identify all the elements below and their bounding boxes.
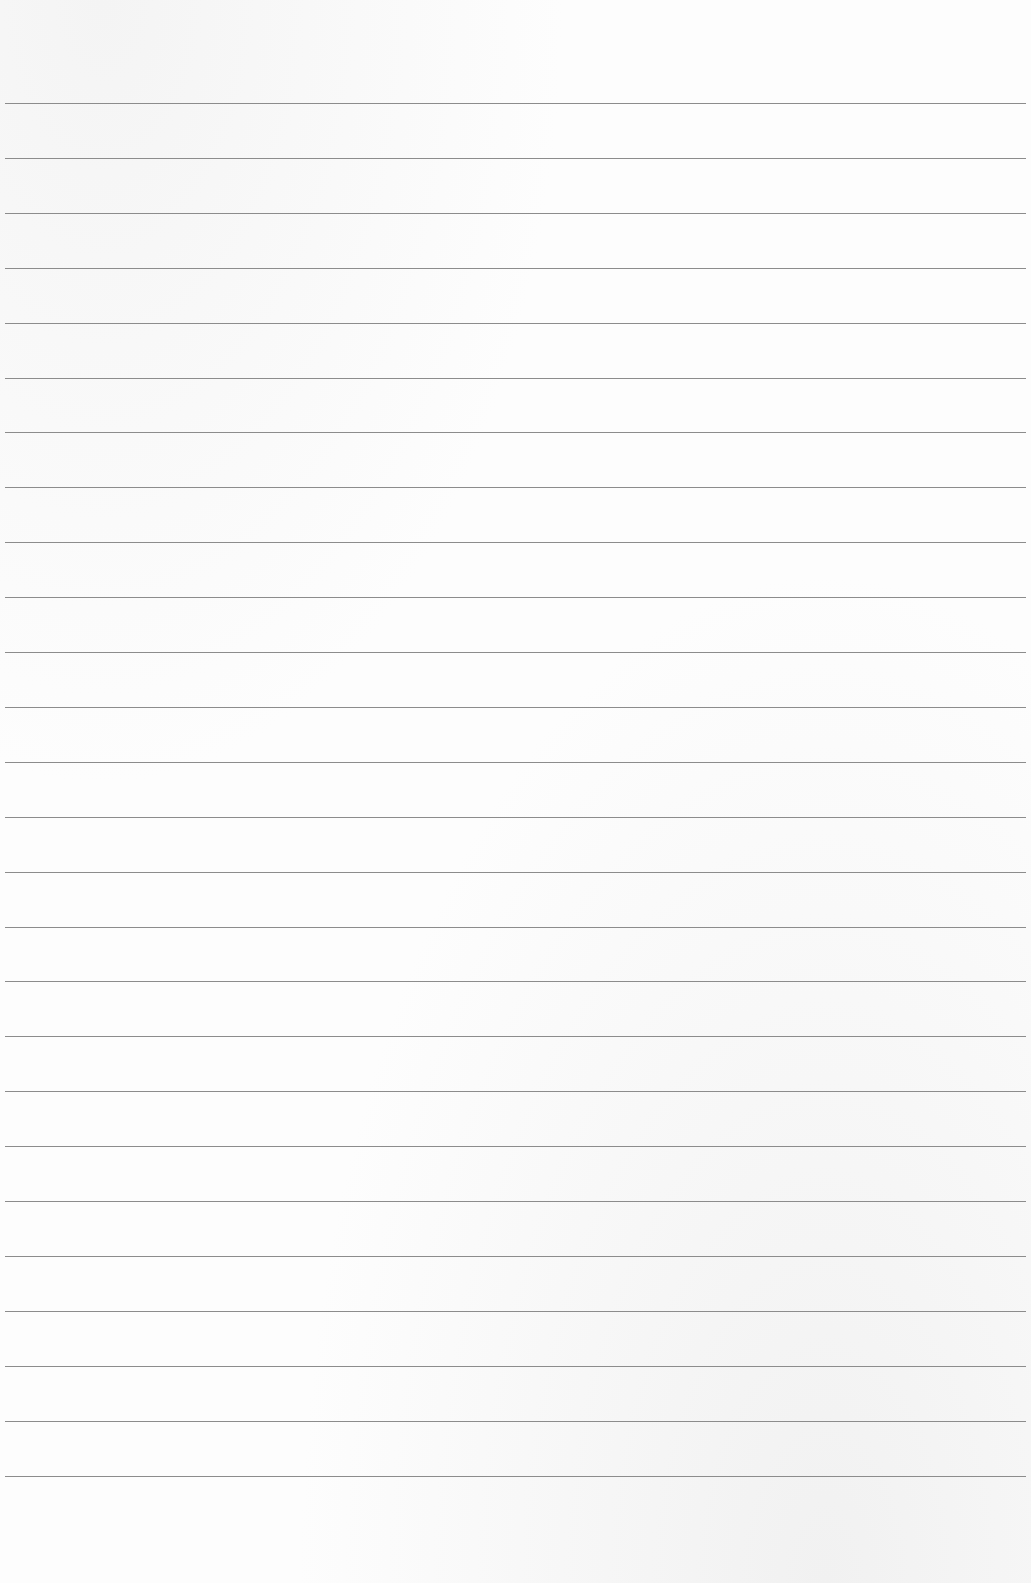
ruled-line [5,981,1026,982]
ruled-line [5,1366,1026,1367]
ruled-line [5,268,1026,269]
ruled-line [5,213,1026,214]
ruled-line [5,927,1026,928]
ruled-line [5,707,1026,708]
ruled-line [5,542,1026,543]
ruled-line [5,1036,1026,1037]
ruled-line [5,432,1026,433]
ruled-line [5,323,1026,324]
ruled-line [5,817,1026,818]
ruled-line [5,597,1026,598]
ruled-line [5,1146,1026,1147]
ruled-line [5,1201,1026,1202]
ruled-line [5,1311,1026,1312]
ruled-line [5,158,1026,159]
ruled-line [5,1476,1026,1477]
ruled-line [5,1421,1026,1422]
ruled-line [5,378,1026,379]
ruled-line [5,1091,1026,1092]
ruled-line [5,487,1026,488]
lined-paper-sheet [0,0,1031,1583]
ruled-line [5,1256,1026,1257]
ruled-line [5,103,1026,104]
ruled-line [5,872,1026,873]
ruled-line [5,762,1026,763]
ruled-line [5,652,1026,653]
